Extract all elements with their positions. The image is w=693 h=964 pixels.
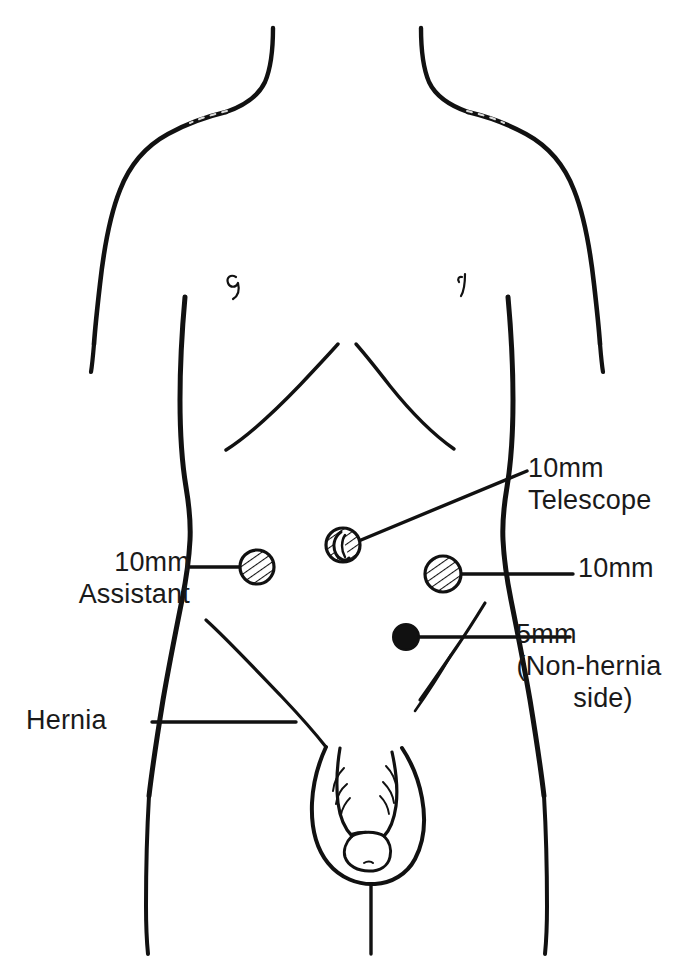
left-inguinal-crease [206,620,326,747]
label-10mm-telescope: 10mm Telescope [528,452,688,516]
label-10mm-right: 10mm [578,552,693,584]
port-marker-5mm [393,624,419,650]
right-arm-inner-line [600,344,603,372]
costal-margin-right [356,344,454,449]
neck-right-line [421,28,468,112]
right-inguinal-crease-lower [415,655,451,711]
label-telescope-line1: 10mm [528,452,688,484]
label-10mm-assistant: 10mm Assistant [18,546,190,610]
label-assistant-line2: Assistant [18,578,190,610]
glans-outline [344,832,390,871]
left-arm-inner-line [91,344,94,372]
label-assistant-line1: 10mm [18,546,190,578]
label-hernia: Hernia [26,704,156,736]
right-nipple-icon [458,274,465,296]
label-5mm-line1: 5mm [494,618,684,650]
figure-canvas: 10mm Assistant 10mm Telescope 10mm 5mm (… [0,0,693,964]
costal-margin-left [226,344,338,450]
left-shoulder-line [94,112,226,344]
label-telescope-line2: Telescope [528,484,688,516]
left-nipple-icon [228,276,239,299]
label-hernia-line1: Hernia [26,704,156,736]
label-10mm-right-line1: 10mm [578,552,693,584]
glans-meatus [364,862,373,864]
scrotum-outline [312,747,424,884]
label-5mm-line2: (Non-hernia [494,650,684,682]
left-thigh-line [146,796,149,954]
label-5mm-line3: side) [494,682,684,714]
right-flank-line [503,297,544,796]
pubic-fold-right-2 [383,782,394,803]
port-marker-assistant [240,550,274,584]
right-inguinal-crease [420,603,485,700]
pubic-fold-right-3 [380,796,389,814]
pubic-fold-left-3 [341,798,350,815]
port-marker-right-10mm [425,556,461,592]
right-thigh-line [544,796,547,954]
neck-left-line [226,28,273,112]
label-5mm-non-hernia-side: 5mm (Non-hernia side) [494,618,684,714]
right-shoulder-line [468,112,600,344]
